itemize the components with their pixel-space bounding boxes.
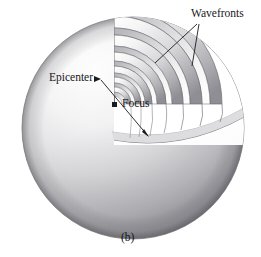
focus-label: Focus [122,98,149,110]
epicenter-label: Epicenter [49,72,93,84]
seismic-wavefront-figure: Wavefronts Epicenter Focus (b) [0,0,261,257]
figure-canvas [0,0,261,257]
wavefronts-label: Wavefronts [191,8,244,20]
panel-caption: (b) [121,232,134,244]
focus-point [112,102,117,107]
